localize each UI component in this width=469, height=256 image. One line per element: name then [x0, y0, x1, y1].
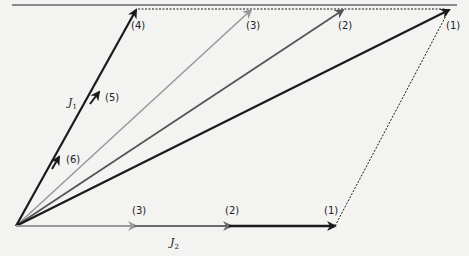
label-j2: J2: [168, 236, 179, 251]
label-top-4: (4): [131, 20, 145, 31]
j1-mid-arrow-5: [90, 92, 99, 104]
resultant-1-arrow: [16, 10, 449, 226]
label-j1-6: (6): [66, 154, 80, 165]
label-j1-5: (5): [105, 92, 119, 103]
label-j2-3: (3): [132, 205, 146, 216]
label-j2-2: (2): [225, 205, 239, 216]
dashed-right-edge: [335, 10, 449, 226]
label-j2-1: (1): [324, 205, 338, 216]
j1-vector: [16, 10, 136, 226]
resultant-3-arrow: [16, 10, 251, 226]
vector-addition-diagram: (4) (3) (2) (1) (5) (6) J1 (3) (2) (1) J…: [0, 0, 469, 256]
label-top-2: (2): [338, 20, 352, 31]
label-top-1: (1): [446, 20, 460, 31]
label-j1: J1: [66, 96, 77, 111]
label-top-3: (3): [246, 20, 260, 31]
resultant-2-arrow: [16, 10, 343, 226]
